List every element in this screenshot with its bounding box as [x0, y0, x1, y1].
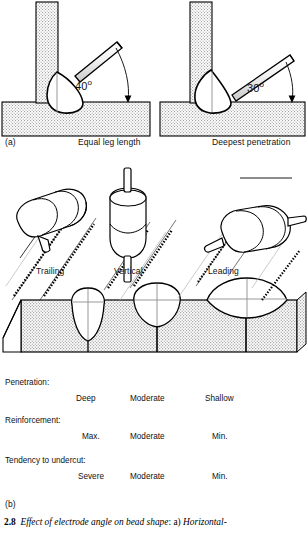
table-row-undercut: Tendency to undercut: [0, 456, 307, 472]
panel-a-left-fillet-weld [2, 2, 150, 136]
row-label-reinforcement: Reinforcement: [5, 416, 61, 425]
table-row-reinforcement-values: Max. Moderate Min. [0, 432, 307, 456]
angle-label-right: 30o [247, 80, 264, 94]
reinforcement-value-2: Moderate [130, 432, 165, 441]
workpiece-left-bevel [3, 300, 21, 352]
panel-b-label: (b) [5, 499, 16, 509]
penetration-value-2: Moderate [130, 394, 165, 403]
panel-a-right-fillet-weld [160, 2, 305, 136]
bead-characteristics-table: Penetration: Deep Moderate Shallow Reinf… [0, 378, 307, 490]
table-row-reinforcement: Reinforcement: [0, 416, 307, 432]
row-label-penetration: Penetration: [5, 378, 49, 387]
table-row-penetration-values: Deep Moderate Shallow [0, 394, 307, 416]
torch-label-trailing: Trailing [36, 266, 64, 276]
angle-arc-right [286, 62, 293, 100]
caption-equal-leg-length: Equal leg length [78, 137, 141, 147]
figure-caption-title: Effect of electrode angle on bead shape [20, 517, 168, 527]
undercut-value-2: Moderate [130, 472, 165, 481]
torch-label-leading: Leading [208, 266, 239, 276]
angle-label-left: 40o [75, 78, 92, 92]
undercut-value-1: Severe [78, 472, 104, 481]
figure-number: 2.8 [4, 517, 16, 527]
base-plate-right [160, 102, 305, 136]
angle-arc-left [116, 48, 129, 100]
panel-b-3d-workpiece [3, 168, 306, 352]
electrode-right [232, 55, 294, 101]
penetration-value-1: Deep [76, 394, 96, 403]
workpiece-right-face [297, 292, 306, 352]
figure-caption-mid: : a) [168, 517, 183, 527]
electrode-left [75, 42, 122, 82]
penetration-value-3: Shallow [205, 394, 234, 403]
row-label-undercut: Tendency to undercut: [5, 456, 86, 465]
reinforcement-value-3: Min. [212, 432, 227, 441]
undercut-value-3: Min. [212, 472, 227, 481]
caption-deepest-penetration: Deepest penetration [212, 137, 290, 147]
table-row-undercut-values: Severe Moderate Min. [0, 472, 307, 490]
figure-caption: 2.8 Effect of electrode angle on bead sh… [4, 516, 304, 528]
figure-caption-tail: Horizontal- [183, 517, 227, 527]
figure-electrode-angle: 40o 30o (a) Equal leg length Deepest pen… [0, 0, 307, 537]
panel-a-label: (a) [5, 137, 16, 147]
table-row-penetration: Penetration: [0, 378, 307, 394]
torch-label-vertical: Vertical [114, 266, 143, 276]
reinforcement-value-1: Max. [82, 432, 100, 441]
